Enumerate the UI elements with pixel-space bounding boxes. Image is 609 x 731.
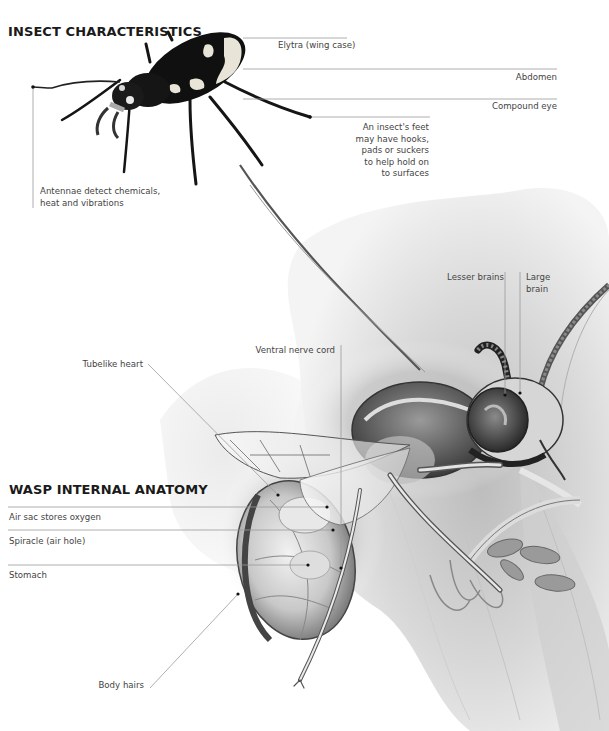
leader-body-hairs — [150, 594, 238, 688]
section-heading-wasp-internal-anatomy: WASP INTERNAL ANATOMY — [9, 482, 208, 497]
label-feet: An insect's feet may have hooks, pads or… — [309, 122, 429, 180]
label-large-brain: Large brain — [526, 272, 550, 295]
label-tubelike-heart: Tubelike heart — [83, 359, 144, 371]
label-body-hairs: Body hairs — [98, 680, 144, 692]
section-heading-insect-characteristics: INSECT CHARACTERISTICS — [8, 24, 202, 39]
label-spiracle: Spiracle (air hole) — [9, 536, 85, 548]
label-air-sac: Air sac stores oxygen — [9, 512, 101, 524]
label-elytra: Elytra (wing case) — [278, 40, 355, 52]
label-ventral-nerve-cord: Ventral nerve cord — [256, 345, 335, 357]
label-lesser-brains: Lesser brains — [447, 272, 504, 284]
label-stomach: Stomach — [9, 570, 47, 582]
beetle-illustration — [33, 17, 310, 184]
label-abdomen: Abdomen — [516, 72, 557, 84]
label-compound-eye: Compound eye — [492, 101, 557, 113]
label-antennae: Antennae detect chemicals, heat and vibr… — [40, 186, 160, 209]
insect-anatomy-diagram: INSECT CHARACTERISTICS Elytra (wing case… — [0, 0, 609, 731]
